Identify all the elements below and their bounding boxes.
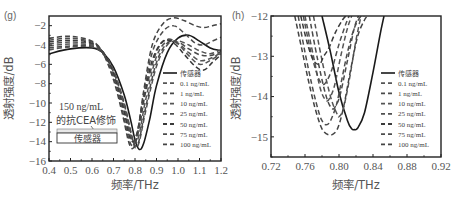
annotation-line1: 150 ng/mL (59, 101, 103, 112)
y-axis-title-h: 透射强度/dB (229, 56, 243, 119)
legend-label: 10 ng/mL (180, 100, 207, 108)
y-tick-label: −6 (34, 58, 46, 70)
x-axis-title-h: 频率/THz (332, 178, 380, 192)
legend-label: 75 ng/mL (180, 131, 207, 139)
y-tick-label: −4 (34, 39, 46, 51)
x-tick-label: 0.9 (150, 164, 164, 176)
legend-label: 10 ng/mL (398, 100, 425, 108)
y-tick-label: −12 (29, 116, 46, 128)
y-tick-label: −14 (251, 90, 269, 102)
legend-label: 25 ng/mL (398, 110, 425, 118)
y-tick-label: −8 (34, 77, 46, 89)
legend-label: 50 ng/mL (398, 121, 425, 129)
legend-label: 0.1 ng/mL (398, 80, 427, 88)
y-tick-label: −14 (29, 135, 47, 147)
x-tick-label: 0.72 (261, 160, 280, 172)
y-tick-label: −12 (251, 10, 268, 22)
x-tick-label: 0.6 (85, 164, 99, 176)
panel-label-h: (h) (232, 10, 244, 21)
y-tick-label: −10 (29, 97, 47, 109)
legend-h: 传感器0.1 ng/mL1 ng/mL10 ng/mL25 ng/mL50 ng… (381, 69, 429, 149)
series-group-h (295, 15, 384, 135)
x-tick-label: 0.92 (431, 160, 450, 172)
x-tick-label: 0.84 (363, 160, 383, 172)
legend-g: 传感器0.1 ng/mL1 ng/mL10 ng/mL25 ng/mL50 ng… (163, 69, 211, 149)
y-tick-label: −16 (29, 155, 47, 167)
legend-label: 25 ng/mL (180, 110, 207, 118)
legend-label: 100 ng/mL (398, 141, 429, 149)
legend-label: 0.1 ng/mL (180, 80, 209, 88)
x-tick-label: 0.8 (128, 164, 142, 176)
x-tick-label: 0.80 (329, 160, 349, 172)
x-tick-label: 1.2 (214, 164, 228, 176)
figure: (g) 0.40.50.60.70.80.91.01.11.2 −2−4−6−8… (0, 0, 460, 199)
x-tick-label: 0.7 (107, 164, 121, 176)
annotation-line2: 的抗CEA修饰 (56, 114, 116, 126)
panel-label-g: (g) (4, 10, 16, 21)
legend-label: 50 ng/mL (180, 121, 207, 129)
chart-panel-h: (h) 0.720.760.800.840.880.92 −12−13−14−1… (229, 10, 451, 192)
legend-label: 1 ng/mL (398, 90, 422, 98)
x-tick-label: 0.88 (397, 160, 417, 172)
annotation-g: 150 ng/mL 的抗CEA修饰 传感器 (56, 101, 117, 144)
legend-label: 传感器 (398, 69, 419, 78)
chart-panel-g: (g) 0.40.50.60.70.80.91.01.11.2 −2−4−6−8… (2, 10, 228, 192)
y-tick-label: −2 (34, 19, 46, 31)
sensor-box-label: 传感器 (74, 133, 101, 144)
legend-label: 1 ng/mL (180, 90, 204, 98)
coating-layer (57, 129, 117, 133)
x-tick-label: 1.0 (171, 164, 185, 176)
legend-label: 75 ng/mL (398, 131, 425, 139)
y-axis-title-g: 透射强度/dB (2, 56, 16, 119)
legend-label: 100 ng/mL (180, 141, 211, 149)
x-axis-title-g: 频率/THz (111, 178, 159, 192)
x-tick-label: 0.5 (64, 164, 78, 176)
y-tick-label: −13 (251, 50, 269, 62)
y-tick-label: −15 (251, 131, 269, 143)
x-tick-label: 0.76 (295, 160, 315, 172)
x-tick-label: 1.1 (193, 164, 207, 176)
legend-label: 传感器 (180, 69, 201, 78)
